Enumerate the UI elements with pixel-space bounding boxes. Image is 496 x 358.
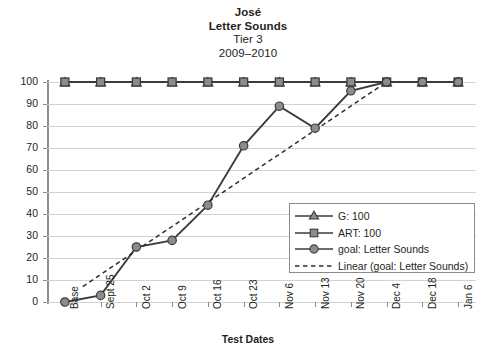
square-marker-icon	[204, 78, 212, 86]
legend-label-g: G: 100	[338, 210, 370, 222]
legend-label-art: ART: 100	[338, 227, 381, 239]
y-tick-label: 70	[0, 141, 38, 153]
chart-title-block: José Letter Sounds Tier 3 2009–2010	[0, 6, 496, 60]
x-tick-label: Sept 25	[105, 275, 116, 309]
x-tick-mark	[351, 302, 352, 307]
x-tick-label: Dec 18	[427, 277, 438, 309]
circle-marker-icon	[275, 102, 283, 110]
square-marker-icon	[168, 78, 176, 86]
x-tick-mark	[136, 302, 137, 307]
chart-title-line-4: 2009–2010	[0, 47, 496, 61]
circle-marker-icon	[311, 124, 319, 132]
y-tick-label: 50	[0, 185, 38, 197]
y-tick-label: 30	[0, 229, 38, 241]
circle-marker-icon	[418, 78, 426, 86]
x-tick-label: Jan 6	[463, 285, 474, 309]
x-axis-title: Test Dates	[0, 333, 496, 345]
y-tick-label: 90	[0, 97, 38, 109]
x-tick-label: Nov 20	[355, 277, 366, 309]
square-marker-icon	[61, 78, 69, 86]
y-tick-label: 40	[0, 207, 38, 219]
x-tick-mark	[244, 302, 245, 307]
x-tick-label: Base	[69, 286, 80, 309]
square-marker-icon	[275, 78, 283, 86]
legend-item-linear[interactable]: Linear (goal: Letter Sounds)	[290, 258, 474, 275]
legend-label-linear: Linear (goal: Letter Sounds)	[338, 260, 468, 272]
circle-marker-icon	[96, 291, 104, 299]
square-marker-icon	[97, 78, 105, 86]
y-tick-label: 60	[0, 163, 38, 175]
square-marker-icon	[290, 225, 338, 241]
circle-marker-icon	[290, 241, 338, 257]
square-marker-icon	[132, 78, 140, 86]
x-tick-mark	[387, 302, 388, 307]
y-tick-label: 20	[0, 251, 38, 263]
legend-item-g[interactable]: G: 100	[290, 208, 474, 225]
x-tick-label: Oct 23	[248, 280, 259, 309]
x-tick-mark	[65, 302, 66, 307]
circle-marker-icon	[132, 243, 140, 251]
square-marker-icon	[347, 78, 355, 86]
x-tick-label: Oct 2	[141, 285, 152, 309]
x-tick-label: Oct 9	[177, 285, 188, 309]
x-tick-label: Dec 4	[391, 283, 402, 309]
x-tick-mark	[422, 302, 423, 307]
legend-label-goal: goal: Letter Sounds	[338, 243, 429, 255]
square-marker-icon	[240, 78, 248, 86]
square-marker-icon	[311, 78, 319, 86]
x-tick-mark	[279, 302, 280, 307]
x-tick-mark	[101, 302, 102, 307]
legend-item-art[interactable]: ART: 100	[290, 225, 474, 242]
circle-marker-icon	[168, 236, 176, 244]
circle-marker-icon	[239, 142, 247, 150]
chart-title-line-3: Tier 3	[0, 33, 496, 47]
y-tick-label: 80	[0, 119, 38, 131]
y-tick-label: 100	[0, 75, 38, 87]
x-tick-label: Oct 16	[212, 280, 223, 309]
circle-marker-icon	[347, 87, 355, 95]
x-tick-mark	[315, 302, 316, 307]
x-tick-label: Nov 13	[320, 277, 331, 309]
x-tick-mark	[172, 302, 173, 307]
chart-title-line-2: Letter Sounds	[0, 20, 496, 34]
x-tick-mark	[458, 302, 459, 307]
circle-marker-icon	[382, 78, 390, 86]
x-tick-label: Nov 6	[284, 283, 295, 309]
circle-marker-icon	[204, 201, 212, 209]
y-tick-label: 0	[0, 295, 38, 307]
chart-root: José Letter Sounds Tier 3 2009–2010 0102…	[0, 0, 496, 358]
y-tick-mark	[43, 302, 47, 303]
chart-title-line-1: José	[0, 6, 496, 20]
x-tick-mark	[208, 302, 209, 307]
y-tick-label: 10	[0, 273, 38, 285]
chart-legend: G: 100 ART: 100 goal: Letter Sounds	[289, 203, 475, 273]
circle-marker-icon	[454, 78, 462, 86]
legend-item-goal[interactable]: goal: Letter Sounds	[290, 241, 474, 258]
triangle-marker-icon	[290, 208, 338, 224]
dashed-line-icon	[290, 258, 338, 274]
